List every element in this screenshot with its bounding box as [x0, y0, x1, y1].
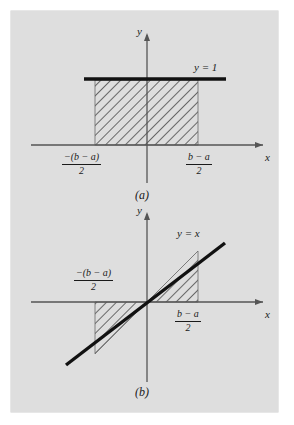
panel-b-plot — [11, 11, 278, 412]
panel-b-right-tick-label: b − a 2 — [175, 309, 201, 333]
panel-b-x-axis-label: x — [265, 309, 270, 320]
figure-root: y x y = 1 −(b − a) 2 b − a 2 (a) — [0, 0, 294, 425]
panel-b-shaded-region-right — [147, 251, 198, 302]
panel-b-curve-y-equals-x — [66, 243, 225, 365]
panel-b-curve-label: y = x — [177, 228, 200, 239]
panel-b-right-tick-denominator: 2 — [175, 322, 201, 334]
panel-b-right-tick-numerator: b − a — [175, 309, 201, 322]
panel-b-left-tick-label: −(b − a) 2 — [74, 268, 113, 292]
panel-b-caption: (b) — [135, 385, 149, 400]
panel-b-y-axis-label: y — [137, 205, 142, 216]
panel-b-x-axis-arrow — [255, 299, 263, 305]
figure-background-panel: y x y = 1 −(b − a) 2 b − a 2 (a) — [11, 11, 278, 412]
panel-b-y-axis-arrow — [144, 212, 150, 220]
panel-b-left-tick-denominator: 2 — [74, 281, 113, 293]
panel-b-left-tick-numerator: −(b − a) — [74, 268, 113, 281]
